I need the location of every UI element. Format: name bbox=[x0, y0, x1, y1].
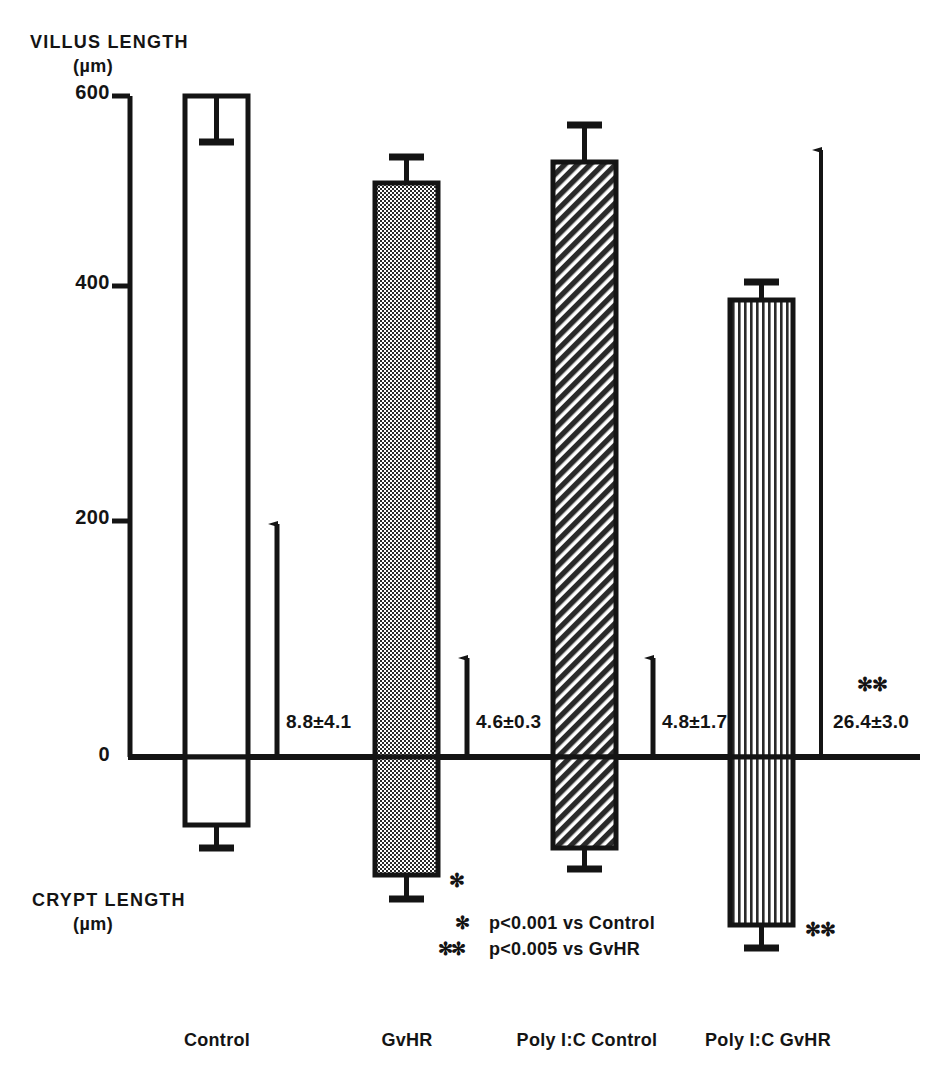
arrow-label-control: 8.8±4.1 bbox=[286, 711, 351, 733]
footnote-text-2: p<0.005 vs GvHR bbox=[489, 939, 640, 959]
arrow-label-polyic-gvhr: 26.4±3.0 bbox=[833, 711, 909, 733]
crypt-bar-polyic-control bbox=[553, 757, 616, 848]
footnote-text-1: p<0.001 vs Control bbox=[489, 913, 655, 933]
villus-bar-control bbox=[185, 96, 248, 757]
category-label-control: Control bbox=[137, 1030, 297, 1051]
arrow-label-polyic-control: 4.8±1.7 bbox=[662, 711, 727, 733]
crypt-axis-units: (µm) bbox=[73, 914, 113, 935]
arrow-stars-polyic-gvhr: ✻✻ bbox=[857, 673, 887, 696]
villus-bar-gvhr bbox=[375, 183, 438, 757]
y-axis bbox=[112, 96, 130, 757]
villus-bar-polyic-control bbox=[553, 162, 616, 757]
footnote-single-star: ✻p<0.001 vs Control bbox=[455, 912, 655, 934]
footnote-star-marker-2: ✻✻ bbox=[438, 938, 489, 960]
crypt-significance-gvhr: ✻ bbox=[449, 869, 464, 892]
footnote-star-marker-1: ✻ bbox=[455, 912, 489, 934]
crypt-significance-polyic-gvhr: ✻✻ bbox=[805, 918, 835, 941]
crypt-axis-title: CRYPT LENGTH bbox=[32, 890, 186, 911]
figure-canvas: VILLUS LENGTH (µm) 600 400 200 0 bbox=[0, 0, 943, 1081]
crypt-bar-control bbox=[185, 757, 248, 825]
footnote-double-star: ✻✻p<0.005 vs GvHR bbox=[438, 938, 640, 960]
category-label-gvhr: GvHR bbox=[327, 1030, 487, 1051]
bar-group-control bbox=[185, 96, 277, 848]
villus-bar-polyic-gvhr bbox=[730, 300, 793, 757]
category-label-polyic-gvhr: Poly I:C GvHR bbox=[678, 1030, 858, 1051]
crypt-bar-polyic-gvhr bbox=[730, 757, 793, 925]
crypt-bar-gvhr bbox=[375, 757, 438, 875]
category-label-polyic-control: Poly I:C Control bbox=[497, 1030, 677, 1051]
arrow-label-gvhr: 4.6±0.3 bbox=[476, 711, 541, 733]
bar-group-polyic-gvhr bbox=[730, 150, 821, 948]
bar-group-gvhr bbox=[375, 157, 467, 899]
